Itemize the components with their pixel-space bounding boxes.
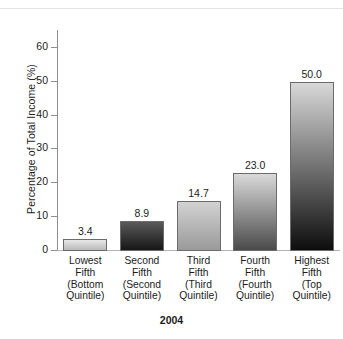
- x-axis-category-label-line: Highest: [283, 255, 340, 267]
- x-axis-category-label-line: Quintile): [114, 290, 171, 302]
- x-axis-category-label-line: (Second: [114, 279, 171, 291]
- x-axis-category-label-line: Fifth: [283, 267, 340, 279]
- x-axis-category-label-line: Fifth: [170, 267, 227, 279]
- y-axis-tick-mark: [51, 216, 57, 217]
- bar-value-label: 23.0: [245, 159, 265, 171]
- bar-value-label: 14.7: [188, 187, 208, 199]
- y-axis-tick-mark: [51, 47, 57, 48]
- bar: 14.7: [177, 201, 221, 251]
- x-axis-category-label-line: Fourth: [227, 255, 284, 267]
- y-axis-tick-label: 0: [42, 243, 48, 255]
- bar: 8.9: [120, 221, 164, 251]
- y-axis-tick-mark: [51, 81, 57, 82]
- y-axis-tick-label: 30: [36, 141, 48, 153]
- x-axis-title: 2004: [0, 314, 343, 326]
- x-axis-category-label-line: (Top: [283, 279, 340, 291]
- bar-value-label: 50.0: [301, 68, 321, 80]
- x-axis-category-label-line: Fifth: [57, 267, 114, 279]
- bar: 3.4: [63, 239, 107, 251]
- bar-chart-figure: Percentage of Total Income (%) 010203040…: [0, 0, 343, 339]
- x-axis-category-label-line: Fifth: [114, 267, 171, 279]
- x-axis-category-label-line: Quintile): [227, 290, 284, 302]
- y-axis-tick-mark: [51, 182, 57, 183]
- top-divider-rule: [0, 8, 343, 9]
- x-axis-category-label-line: (Bottom: [57, 279, 114, 291]
- bar-value-label: 8.9: [135, 207, 150, 219]
- x-axis-category-label: ThirdFifth(ThirdQuintile): [170, 255, 227, 302]
- y-axis-tick-label: 40: [36, 108, 48, 120]
- y-axis-tick-mark: [51, 148, 57, 149]
- x-axis-category-label-line: Third: [170, 255, 227, 267]
- x-axis-category-label: SecondFifth(SecondQuintile): [114, 255, 171, 302]
- x-axis-category-label-line: Quintile): [283, 290, 340, 302]
- x-axis-category-label: FourthFifth(FourthQuintile): [227, 255, 284, 302]
- y-axis-tick-label: 20: [36, 175, 48, 187]
- bar: 23.0: [233, 173, 277, 251]
- x-axis-category-label-line: (Fourth: [227, 279, 284, 291]
- y-axis-tick-mark: [51, 115, 57, 116]
- y-axis-tick-label: 50: [36, 74, 48, 86]
- x-axis-category-label: HighestFifth(TopQuintile): [283, 255, 340, 302]
- y-axis-line: [57, 30, 58, 250]
- y-axis-tick-label: 10: [36, 209, 48, 221]
- bar: 50.0: [290, 82, 334, 251]
- y-axis-tick-label: 60: [36, 40, 48, 52]
- x-axis-category-label-line: Quintile): [57, 290, 114, 302]
- x-axis-category-label: LowestFifth(BottomQuintile): [57, 255, 114, 302]
- y-axis-tick-mark: [51, 250, 57, 251]
- plot-area: 0102030405060 3.48.914.723.050.0: [57, 30, 343, 251]
- x-axis-category-label-line: (Third: [170, 279, 227, 291]
- bar-value-label: 3.4: [78, 225, 93, 237]
- x-axis-category-label-line: Quintile): [170, 290, 227, 302]
- x-axis-category-label-line: Second: [114, 255, 171, 267]
- x-axis-category-label-line: Lowest: [57, 255, 114, 267]
- y-axis-title: Percentage of Total Income (%): [25, 29, 37, 249]
- x-axis-category-label-line: Fifth: [227, 267, 284, 279]
